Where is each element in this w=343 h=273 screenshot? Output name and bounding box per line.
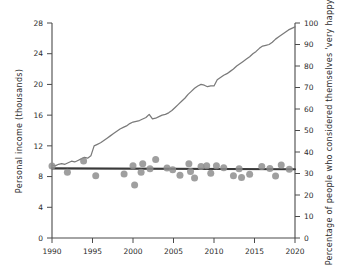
scatter-point — [121, 170, 128, 177]
right-tick-label: 50 — [304, 126, 314, 135]
scatter-point — [220, 164, 227, 171]
x-tick-label: 2015 — [245, 247, 264, 256]
scatter-point — [138, 169, 145, 176]
axis-lines — [52, 23, 295, 238]
right-tick-label: 90 — [304, 40, 314, 49]
chart-canvas: 0481216202428 0102030405060708090100 199… — [0, 0, 343, 273]
left-tick-label: 0 — [38, 234, 43, 243]
scatter-point — [49, 162, 56, 169]
x-axis-ticks: 1990199520002005201020152020 — [42, 238, 304, 256]
scatter-point — [236, 165, 243, 172]
left-tick-label: 16 — [33, 111, 43, 120]
left-tick-label: 8 — [38, 172, 43, 181]
right-tick-label: 80 — [304, 62, 314, 71]
scatter-point — [246, 171, 253, 178]
right-tick-label: 100 — [304, 19, 319, 28]
right-tick-label: 70 — [304, 83, 314, 92]
scatter-point — [213, 162, 220, 169]
x-tick-label: 2020 — [285, 247, 304, 256]
scatter-point — [278, 161, 285, 168]
scatter-point — [207, 170, 214, 177]
scatter-point — [238, 174, 245, 181]
income-line — [52, 27, 295, 166]
scatter-point — [272, 173, 279, 180]
chart-figure: 0481216202428 0102030405060708090100 199… — [0, 0, 343, 273]
scatter-point — [130, 162, 137, 169]
scatter-point — [187, 168, 194, 175]
scatter-point — [92, 172, 99, 179]
scatter-point — [266, 165, 273, 172]
right-tick-label: 60 — [304, 105, 314, 114]
scatter-point — [139, 160, 146, 167]
right-tick-label: 10 — [304, 212, 314, 221]
right-tick-label: 40 — [304, 148, 314, 157]
scatter-point — [152, 156, 159, 163]
scatter-point — [203, 162, 210, 169]
scatter-point — [176, 172, 183, 179]
left-axis-title: Personal income (thousands) — [15, 69, 24, 193]
left-tick-label: 12 — [33, 142, 43, 151]
scatter-point — [191, 175, 198, 182]
series-layer — [49, 27, 296, 189]
left-tick-label: 20 — [33, 80, 43, 89]
left-tick-label: 28 — [33, 19, 43, 28]
left-axis-ticks: 0481216202428 — [33, 19, 52, 243]
right-tick-label: 20 — [304, 191, 314, 200]
scatter-point — [80, 158, 87, 165]
x-tick-label: 2000 — [123, 247, 142, 256]
right-tick-label: 0 — [304, 234, 309, 243]
x-tick-label: 1990 — [42, 247, 61, 256]
right-tick-label: 30 — [304, 169, 314, 178]
scatter-point — [230, 172, 237, 179]
left-tick-label: 4 — [38, 203, 43, 212]
scatter-point — [258, 163, 265, 170]
scatter-point — [64, 169, 71, 176]
scatter-point — [169, 166, 176, 173]
x-tick-label: 2005 — [164, 247, 183, 256]
scatter-point — [147, 165, 154, 172]
x-tick-label: 2010 — [204, 247, 223, 256]
left-tick-label: 24 — [33, 49, 43, 58]
scatter-point — [286, 166, 293, 173]
scatter-point — [185, 160, 192, 167]
x-tick-label: 1995 — [83, 247, 102, 256]
right-axis-ticks: 0102030405060708090100 — [295, 19, 319, 243]
right-axis-title: Percentage of people who considered them… — [325, 0, 334, 265]
scatter-point — [131, 182, 138, 189]
